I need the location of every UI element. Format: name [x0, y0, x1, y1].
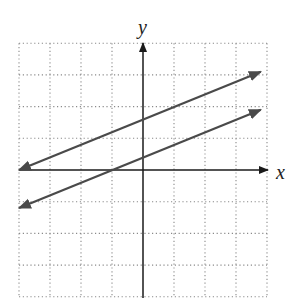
x-axis-label: x: [276, 162, 285, 182]
line-lower: [19, 110, 261, 208]
coordinate-plane: [0, 0, 290, 306]
line-upper: [19, 72, 261, 170]
plotted-lines: [19, 72, 261, 208]
y-axis-label: y: [138, 17, 147, 37]
